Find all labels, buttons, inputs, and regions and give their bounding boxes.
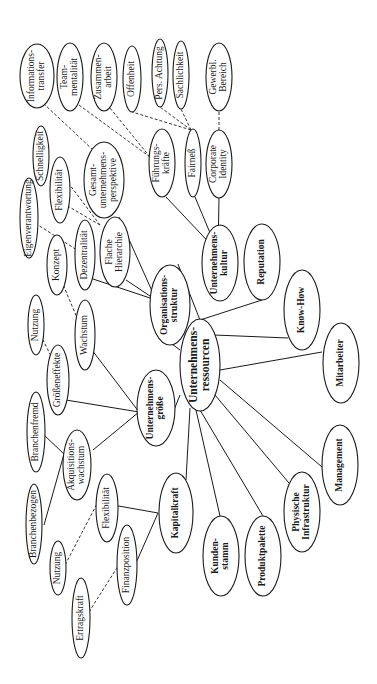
node-teammentalitaet: Team-mentalität xyxy=(57,43,83,111)
node-informationstransfer: Informations-transfer xyxy=(20,44,54,108)
solid-connector xyxy=(220,380,322,467)
node-label: Schnelligkeit xyxy=(35,131,45,181)
node-label: Flexibilität xyxy=(54,169,64,211)
node-schnelligkeit: Schnelligkeit xyxy=(33,126,49,186)
node-eigenverantwortung: Eigenverantwortung xyxy=(20,178,38,258)
node-label: Branchenbezogen xyxy=(28,490,38,558)
node-kultur: Unternehmens-kultur xyxy=(202,225,238,301)
node-label: Sachlichkeit xyxy=(175,51,185,98)
node-zusammenarbeit: Zusammen-arbeit xyxy=(91,43,117,111)
node-finanzposition: Finanzposition xyxy=(117,525,137,605)
solid-connector xyxy=(93,412,139,450)
node-label: Pers. Achtung xyxy=(154,46,164,100)
node-label: Akquisitions-wachstum xyxy=(66,439,86,491)
node-label: Wachstum xyxy=(79,314,89,354)
node-label: Reputation xyxy=(256,239,266,285)
solid-connector xyxy=(214,335,288,338)
node-groesseneffekte: Größeneffekte xyxy=(47,345,69,415)
node-fairness: Fairneß xyxy=(185,129,201,197)
node-flexibilitaet_kap: Flexibilität xyxy=(96,474,118,542)
solid-connector xyxy=(92,350,139,412)
solid-connector xyxy=(220,352,322,370)
dashed-connector xyxy=(160,107,191,130)
node-label: Fairneß xyxy=(187,148,197,177)
node-mitarbeiter: Mitarbeiter xyxy=(323,323,359,403)
node-branchenbezogen: Branchenbezogen xyxy=(26,484,42,564)
solid-connector xyxy=(113,505,158,513)
node-ressourcen: Unternehmens-ressourcen xyxy=(180,319,220,411)
node-label: Offenheit xyxy=(126,61,136,98)
node-label: Ertragskraft xyxy=(75,595,85,641)
node-persachtung: Pers. Achtung xyxy=(152,39,168,107)
node-reputation: Reputation xyxy=(244,224,280,300)
node-infrastruktur: PhysischeInfrastruktur xyxy=(284,472,320,552)
node-sachlichkeit: Sachlichkeit xyxy=(173,41,189,109)
solid-connector xyxy=(186,408,190,480)
node-offenheit: Offenheit xyxy=(123,46,141,112)
dashed-connector xyxy=(87,563,120,615)
node-nutzung_k: Nutzung xyxy=(50,541,66,595)
node-layer: Unternehmens-ressourcenOrganisations-str… xyxy=(20,39,359,658)
solid-connector xyxy=(200,410,263,516)
dashed-connector xyxy=(132,112,191,130)
node-label: Größeneffekte xyxy=(52,353,62,408)
node-kundenstamm: Kunden-stamm xyxy=(203,516,239,596)
node-label: Flexibilität xyxy=(101,487,111,529)
node-label: Mitarbeiter xyxy=(335,338,345,386)
node-management: Management xyxy=(322,425,358,505)
node-kapitalkraft: Kapitalkraft xyxy=(159,473,193,553)
node-flexibilitaet_org: Flexibilität xyxy=(50,157,70,223)
node-corporate: CorporateIdentity xyxy=(206,130,232,198)
solid-connector xyxy=(44,454,64,525)
node-flachehierarchie: FlacheHierarchie xyxy=(100,217,130,287)
node-nutzung_g: Nutzung xyxy=(28,295,44,355)
solid-connector xyxy=(196,410,220,516)
node-akquisition: Akquisitions-wachstum xyxy=(63,430,91,500)
node-konzept: Konzept xyxy=(47,235,67,295)
node-label: Finanzposition xyxy=(121,537,131,594)
solid-connector xyxy=(136,513,158,563)
node-label: Gewerbl.Bereich xyxy=(208,59,228,94)
node-label: Dezentralität xyxy=(79,230,89,279)
node-knowhow: Know-How xyxy=(284,270,320,350)
node-groesse: Unternehmens-größe xyxy=(137,370,175,446)
node-label: CorporateIdentity xyxy=(208,145,228,183)
concept-map: Unternehmens-ressourcenOrganisations-str… xyxy=(0,0,377,684)
node-wachstum: Wachstum xyxy=(75,300,95,370)
solid-connector xyxy=(44,435,64,454)
node-gewerbl: Gewerbl.Bereich xyxy=(206,43,232,111)
node-label: Kapitalkraft xyxy=(170,487,180,539)
dashed-connector xyxy=(65,500,99,565)
node-branchenfremd: Branchenfremd xyxy=(27,392,45,472)
node-label: Eigenverantwortung xyxy=(23,179,33,257)
node-label: Nutzung xyxy=(30,308,40,341)
solid-connector xyxy=(215,395,289,483)
node-orgstruktur: Organisations-struktur xyxy=(150,265,190,345)
solid-connector xyxy=(200,300,262,320)
solid-connector xyxy=(66,400,139,412)
node-gesamtunternehmen: Gesamt-unternehmens-perspektive xyxy=(84,142,124,218)
node-label: Know-How xyxy=(296,287,306,334)
node-fuehrungskraefte: Führungs-kräfte xyxy=(149,129,175,197)
node-label: Branchenfremd xyxy=(30,402,40,461)
node-produktpalette: Produktpalette xyxy=(245,516,281,596)
node-label: Management xyxy=(334,438,344,492)
node-label: Kunden-stamm xyxy=(210,538,230,574)
node-label: Produktpalette xyxy=(257,525,267,586)
node-label: Konzept xyxy=(51,249,61,282)
node-dezentralitaet: Dezentralität xyxy=(75,220,95,290)
node-ertragskraft: Ertragskraft xyxy=(72,578,90,658)
node-label: Nutzung xyxy=(52,551,62,584)
